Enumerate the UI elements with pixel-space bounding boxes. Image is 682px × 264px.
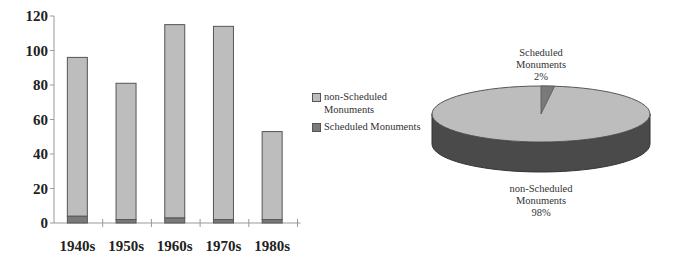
pie-label-scheduled: Scheduled Monuments 2% [505, 47, 577, 83]
y-tick-label: 60 [33, 112, 48, 128]
bar-segment [67, 57, 87, 216]
pie-label-scheduled-percent: 2% [505, 71, 577, 83]
bar-segment [67, 216, 87, 223]
x-tick-label: 1940s [59, 238, 95, 254]
y-tick-label: 100 [26, 43, 49, 59]
pie-label-scheduled-line1: Scheduled [505, 47, 577, 59]
bar-segment [116, 83, 136, 219]
bar-segment [165, 25, 185, 218]
x-tick-label: 1970s [206, 238, 242, 254]
legend-label-line1: non-Scheduled [324, 91, 387, 102]
bar-segment [262, 220, 282, 223]
legend-item-non-scheduled: non-Scheduled Monuments [312, 90, 422, 116]
y-tick-label: 80 [33, 77, 48, 93]
bar-segment [213, 26, 233, 219]
legend-item-scheduled: Scheduled Monuments [312, 120, 422, 133]
bar-segment [116, 220, 136, 223]
x-tick-label: 1960s [157, 238, 193, 254]
chart-root: 0204060801001201940s1950s1960s1970s1980s… [0, 0, 682, 264]
legend-label-non-scheduled: non-Scheduled Monuments [324, 90, 387, 116]
x-tick-label: 1980s [254, 238, 290, 254]
bar-segment [213, 220, 233, 223]
bar-segment [165, 218, 185, 223]
y-tick-label: 40 [33, 146, 48, 162]
y-tick-label: 0 [41, 215, 49, 231]
pie-label-scheduled-line2: Monuments [505, 59, 577, 71]
pie-label-non-scheduled-line1: non-Scheduled [495, 183, 587, 195]
y-tick-label: 20 [33, 181, 48, 197]
legend-swatch-non-scheduled [312, 93, 321, 102]
pie-label-non-scheduled-percent: 98% [495, 207, 587, 219]
legend-label-scheduled: Scheduled Monuments [324, 120, 421, 133]
legend: non-Scheduled Monuments Scheduled Monume… [312, 90, 422, 137]
pie-label-non-scheduled: non-Scheduled Monuments 98% [495, 183, 587, 219]
pie-label-non-scheduled-line2: Monuments [495, 195, 587, 207]
legend-label-line2: Monuments [324, 104, 374, 115]
legend-swatch-scheduled [312, 123, 321, 132]
bar-segment [262, 132, 282, 220]
x-tick-label: 1950s [108, 238, 144, 254]
y-tick-label: 120 [26, 8, 49, 24]
